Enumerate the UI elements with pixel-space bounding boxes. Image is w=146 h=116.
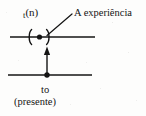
upper-axis-label: t(n) [23, 7, 38, 18]
lower-axis-label: to [41, 85, 49, 96]
experience-timeline-figure: t(n) A experiência to (presente) [0, 0, 146, 116]
lower-axis-point-dot [44, 72, 49, 77]
lower-axis-sublabel: (presente) [14, 97, 56, 108]
callout-leader-line [47, 14, 72, 36]
upper-axis-point-dot [37, 34, 42, 39]
upper-axis-label-main: (n) [25, 6, 38, 18]
callout-label: A experiência [74, 8, 132, 19]
time-arrow-head-icon [44, 47, 50, 56]
